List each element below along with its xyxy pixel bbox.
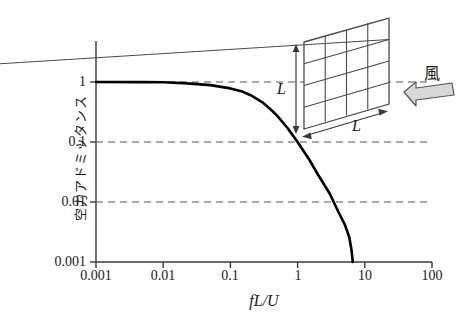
inset-horizontal-dimension-label: L [352, 117, 361, 135]
x-tick-label-10: 10 [358, 268, 372, 284]
x-tick-label-100: 100 [422, 268, 443, 284]
x-tick-label-0.001: 0.001 [80, 268, 112, 284]
x-axis-title: fL/U [249, 292, 278, 310]
x-tick-label-1: 1 [295, 268, 302, 284]
aerodynamic-admittance-figure: 0.001 0.01 0.1 1 10 100 1 0.1 0.01 0.001… [0, 0, 464, 328]
wind-label: 風 [424, 60, 440, 84]
y-tick-label-0.001: 0.001 [36, 254, 86, 270]
vertical-dimension-arrow [293, 44, 300, 134]
y-axis-ticks [90, 82, 96, 262]
inset-vertical-dimension-label: L [277, 80, 286, 98]
x-axis-ticks [96, 262, 432, 268]
y-axis-title: 空力アドミッタンス [70, 95, 89, 221]
x-tick-label-0.1: 0.1 [221, 268, 239, 284]
y-tick-label-1: 1 [36, 74, 86, 90]
wind-arrow-icon [404, 82, 454, 106]
x-tick-label-0.01: 0.01 [151, 268, 176, 284]
